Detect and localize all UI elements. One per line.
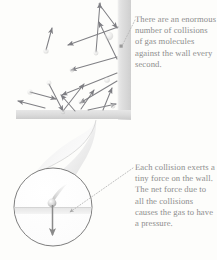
gas-molecule bbox=[111, 104, 116, 109]
horizontal-wall bbox=[16, 110, 131, 119]
gas-molecule bbox=[79, 100, 84, 105]
gas-pressure-figure: There are an enormous number of collisio… bbox=[0, 0, 217, 260]
magnifier-inset bbox=[10, 168, 100, 246]
vertical-wall bbox=[118, 0, 131, 120]
caption-top-text: There are an enormous number of collisio… bbox=[135, 14, 217, 70]
trajectory-arrow bbox=[99, 22, 117, 59]
leader-top-endpoint bbox=[120, 45, 123, 48]
trajectory-arrow bbox=[46, 28, 52, 50]
gas-molecule bbox=[105, 32, 113, 40]
trajectory-arrow bbox=[18, 101, 45, 108]
gas-molecule bbox=[70, 68, 75, 73]
caption-bottom-text: Each collision exerts a tiny force on th… bbox=[135, 162, 217, 229]
container-walls bbox=[16, 0, 131, 120]
trajectory-arrow bbox=[80, 81, 117, 103]
trajectory-arrow bbox=[96, 3, 100, 52]
trajectory-arrow bbox=[71, 57, 117, 70]
inset-wall-surface bbox=[10, 207, 100, 214]
gas-molecule bbox=[27, 89, 32, 94]
gas-molecule bbox=[61, 110, 65, 114]
gas-molecule bbox=[47, 81, 52, 86]
trajectory-arrow bbox=[63, 84, 84, 111]
trajectory-arrow bbox=[61, 95, 75, 111]
trajectory-arrow bbox=[99, 4, 117, 28]
trajectory-arrow bbox=[62, 73, 117, 95]
trajectory-arrow bbox=[81, 90, 94, 109]
molecule-trajectory-arrows bbox=[18, 3, 118, 111]
trajectory-arrow bbox=[30, 92, 56, 99]
gas-molecule bbox=[94, 51, 99, 56]
gas-molecule bbox=[43, 48, 48, 53]
gas-molecule bbox=[104, 77, 110, 83]
